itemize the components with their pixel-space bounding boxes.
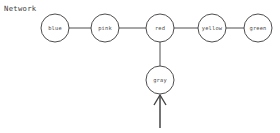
node-label-green: green: [250, 25, 267, 32]
annotations-group: [154, 95, 166, 128]
node-red[interactable]: red: [146, 14, 174, 42]
node-gray[interactable]: gray: [146, 66, 174, 94]
node-pink[interactable]: pink: [91, 14, 119, 42]
node-label-yellow: yellow: [202, 25, 223, 32]
node-label-blue: blue: [48, 25, 62, 31]
page-title: Network: [4, 4, 37, 13]
node-yellow[interactable]: yellow: [198, 14, 226, 42]
node-label-red: red: [155, 25, 165, 31]
node-label-gray: gray: [153, 77, 167, 84]
nodes-group: bluepinkredyellowgreengray: [41, 14, 272, 94]
node-blue[interactable]: blue: [41, 14, 69, 42]
network-diagram-canvas: Network bluepinkredyellowgreengray: [0, 0, 280, 133]
node-label-pink: pink: [98, 25, 112, 32]
node-green[interactable]: green: [244, 14, 272, 42]
network-graph: Network bluepinkredyellowgreengray: [0, 0, 280, 133]
